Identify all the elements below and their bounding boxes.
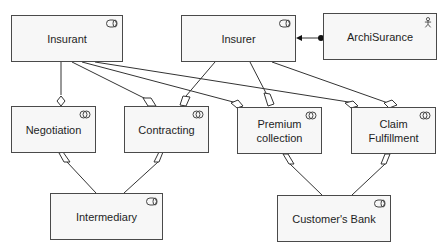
collaboration-icon xyxy=(192,110,204,119)
node-contracting[interactable]: Contracting xyxy=(124,106,209,153)
edge-insurer-contracting xyxy=(186,62,215,96)
role-icon xyxy=(146,197,158,206)
edge-negotiation-intermediary xyxy=(67,162,96,193)
edge-claim-bank xyxy=(352,164,385,195)
node-label: Claim Fulfillment xyxy=(368,117,418,145)
node-claim-fulfillment[interactable]: Claim Fulfillment xyxy=(351,107,436,154)
role-icon xyxy=(374,199,386,208)
role-icon xyxy=(279,19,291,28)
node-archisurance[interactable]: ArchiSurance xyxy=(323,13,437,60)
node-label: Negotiation xyxy=(26,123,82,137)
edge-premium-bank xyxy=(290,164,322,195)
collaboration-icon xyxy=(419,111,431,120)
edge-insurer-premium xyxy=(250,62,267,95)
node-label: Insurer xyxy=(221,32,255,46)
node-label: Intermediary xyxy=(76,210,137,224)
node-intermediary[interactable]: Intermediary xyxy=(50,193,163,240)
node-label: Premium collection xyxy=(257,117,303,145)
collaboration-icon xyxy=(305,111,317,120)
edge-insurer-claim xyxy=(272,62,388,103)
aggregation-diamonds xyxy=(57,93,397,164)
node-label: ArchiSurance xyxy=(347,30,413,44)
actor-icon xyxy=(424,17,432,28)
collaboration-icon xyxy=(79,110,91,119)
node-customers-bank[interactable]: Customer's Bank xyxy=(277,195,391,242)
node-label: Customer's Bank xyxy=(292,212,375,226)
role-icon xyxy=(106,19,118,28)
node-premium-collection[interactable]: Premium collection xyxy=(237,107,322,154)
edge-contracting-intermediary xyxy=(124,162,158,193)
assignment-arrowhead xyxy=(296,35,302,41)
node-label: Contracting xyxy=(138,123,194,137)
diagram-canvas: Insurant Insurer ArchiSurance Negotiatio… xyxy=(0,0,446,252)
node-insurer[interactable]: Insurer xyxy=(181,15,296,62)
edge-insurant-premium xyxy=(82,62,237,103)
node-insurant[interactable]: Insurant xyxy=(11,15,123,62)
edge-insurant-claim xyxy=(95,62,355,103)
edge-insurant-contracting xyxy=(72,62,148,100)
node-negotiation[interactable]: Negotiation xyxy=(11,106,96,153)
node-label: Insurant xyxy=(47,32,87,46)
